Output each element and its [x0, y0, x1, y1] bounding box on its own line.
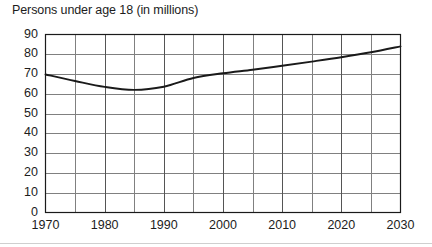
- y-axis-tick-label: 40: [10, 126, 38, 139]
- x-axis-tick-label: 2010: [259, 219, 305, 232]
- vertical-gridlines: [76, 35, 372, 213]
- x-axis-tick-label: 1990: [141, 219, 187, 232]
- chart-figure: Persons under age 18 (in millions) 90807…: [0, 0, 432, 247]
- y-axis-tick-label: 80: [10, 47, 38, 60]
- x-axis-tick-label: 1980: [82, 219, 128, 232]
- y-axis-tick-label: 70: [10, 67, 38, 80]
- y-axis-tick-label: 30: [10, 146, 38, 159]
- y-axis-tick-label: 0: [10, 206, 38, 219]
- x-axis-tick-label: 2020: [318, 219, 364, 232]
- y-axis-tick-label: 90: [10, 28, 38, 41]
- y-axis-tick-label: 60: [10, 87, 38, 100]
- chart-canvas: [0, 0, 432, 247]
- plot-area: 9080706050403020100 19701980199020002010…: [0, 0, 432, 247]
- x-axis-tick-label: 1970: [23, 219, 69, 232]
- bottom-divider: [0, 243, 432, 244]
- y-axis-tick-label: 20: [10, 166, 38, 179]
- y-axis-tick-label: 50: [10, 107, 38, 120]
- y-axis-tick-label: 10: [10, 186, 38, 199]
- x-axis-tick-label: 2000: [200, 219, 246, 232]
- x-axis-tick-label: 2030: [378, 219, 424, 232]
